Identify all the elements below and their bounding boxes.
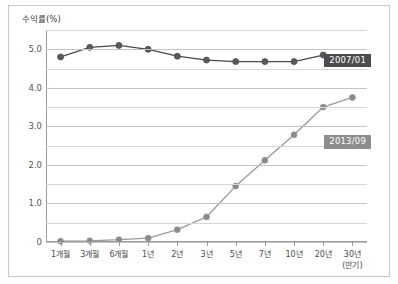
gridline-minor <box>46 30 367 31</box>
y-tick-label: 1.0 <box>28 198 42 208</box>
gridline-minor <box>46 146 367 147</box>
data-point-marker <box>204 214 210 220</box>
gridline-major <box>46 49 367 50</box>
x-tick-label: 3개월 <box>80 248 99 259</box>
x-tick-label: 1개월 <box>51 248 70 259</box>
x-tick-label: 5년 <box>230 248 242 259</box>
y-tick-label: 4.0 <box>28 83 42 93</box>
gridline-major <box>46 165 367 166</box>
gridline-minor <box>46 223 367 224</box>
gridline-minor <box>46 184 367 185</box>
x-axis-tick-labels: 1개월3개월6개월1년2년3년5년7년10년20년30년(만기) <box>46 242 367 276</box>
plot-wrapper: 2007/012013/09 <box>46 30 367 242</box>
x-tick-label: 20년 <box>315 248 332 259</box>
gridline-minor <box>46 107 367 108</box>
data-point-marker <box>116 42 122 48</box>
x-tick-label: 2년 <box>171 248 183 259</box>
data-point-marker <box>291 132 297 138</box>
chart-svg <box>46 30 367 242</box>
x-axis-unit-label: (만기) <box>342 259 362 270</box>
data-point-marker <box>204 57 210 63</box>
y-tick-label: 0 <box>37 237 42 247</box>
series-label-2013/09: 2013/09 <box>324 135 371 149</box>
gridline-major <box>46 126 367 127</box>
data-point-marker <box>349 94 355 100</box>
data-point-marker <box>174 53 180 59</box>
x-tick-label: 6개월 <box>109 248 128 259</box>
data-point-marker <box>262 59 268 65</box>
x-tick-label: 7년 <box>259 248 271 259</box>
y-tick-label: 5.0 <box>28 44 42 54</box>
gridline-major <box>46 88 367 89</box>
data-point-marker <box>262 157 268 163</box>
gridline-minor <box>46 69 367 70</box>
y-axis-tick-labels: 01.02.03.04.05.0 <box>12 30 42 242</box>
chart-figure: 수익률(%) 01.02.03.04.05.0 2007/012013/09 1… <box>0 0 398 284</box>
data-point-marker <box>145 235 151 241</box>
series-label-2007/01: 2007/01 <box>324 54 371 68</box>
y-tick-label: 2.0 <box>28 160 42 170</box>
y-axis-title: 수익률(%) <box>22 12 61 24</box>
data-point-marker <box>58 54 64 60</box>
gridline-major <box>46 203 367 204</box>
data-point-marker <box>174 227 180 233</box>
y-tick-label: 3.0 <box>28 121 42 131</box>
data-point-marker <box>291 59 297 65</box>
x-tick-label: 3년 <box>200 248 212 259</box>
x-tick-label: 1년 <box>142 248 154 259</box>
x-tick-label: 30년 <box>344 248 361 259</box>
data-point-marker <box>233 59 239 65</box>
x-tick-label: 10년 <box>285 248 302 259</box>
